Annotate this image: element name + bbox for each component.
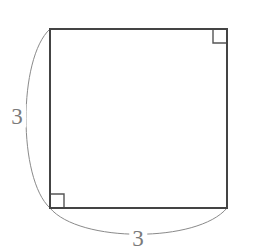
figure-canvas xyxy=(0,0,253,252)
bottom-side-length-label: 3 xyxy=(129,227,147,250)
bottom-left-right-angle-icon xyxy=(51,194,64,207)
geometry-figure: 3 3 xyxy=(0,0,253,252)
left-side-length-label: 3 xyxy=(8,105,26,128)
top-right-right-angle-icon xyxy=(213,30,226,43)
left-side-dimension-arc xyxy=(26,29,50,208)
square-outline xyxy=(50,29,227,208)
